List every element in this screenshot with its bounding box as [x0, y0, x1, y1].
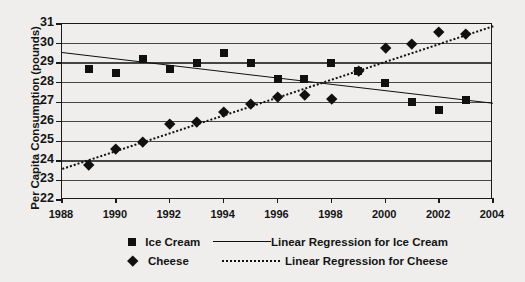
gridline	[62, 43, 491, 44]
data-point-ice-cream	[166, 65, 174, 73]
gridline	[62, 62, 491, 63]
gridline	[62, 180, 491, 181]
x-tickmark	[492, 198, 493, 203]
data-point-ice-cream	[327, 59, 335, 67]
y-tickmark	[56, 102, 61, 103]
legend-series-label: Ice Cream	[145, 236, 213, 248]
y-tick-label: 27	[24, 94, 54, 107]
x-tick-label: 1988	[38, 209, 84, 220]
gridline	[62, 141, 491, 142]
y-tickmark	[56, 160, 61, 161]
line-glyph	[213, 241, 271, 242]
legend-trendline-label: Linear Regression for Ice Cream	[271, 236, 448, 248]
y-tick-label: 23	[24, 172, 54, 185]
y-tickmark	[56, 82, 61, 83]
data-point-ice-cream	[139, 55, 147, 63]
y-tickmark	[56, 121, 61, 122]
legend-row: Ice CreamLinear Regression for Ice Cream	[118, 232, 448, 251]
chart-container: Per Capita Consumption (pounds) 22232425…	[0, 0, 525, 282]
line-glyph	[222, 260, 280, 262]
y-tickmark	[56, 23, 61, 24]
gridline	[62, 121, 491, 122]
plot-area	[61, 23, 492, 199]
y-tick-label: 24	[24, 153, 54, 166]
x-tickmark	[169, 198, 170, 203]
x-tickmark	[385, 198, 386, 203]
solid-line-icon	[213, 241, 271, 242]
chart-legend: Ice CreamLinear Regression for Ice Cream…	[118, 232, 448, 270]
y-tickmark	[56, 62, 61, 63]
x-tickmark	[61, 198, 62, 203]
data-point-ice-cream	[462, 96, 470, 104]
legend-row: CheeseLinear Regression for Cheese	[118, 251, 448, 270]
marker-glyph	[128, 238, 136, 246]
data-point-ice-cream	[435, 106, 443, 114]
y-tickmark	[56, 141, 61, 142]
data-point-ice-cream	[85, 65, 93, 73]
data-point-cheese	[164, 118, 175, 129]
y-tick-label: 28	[24, 75, 54, 88]
x-tick-label: 1994	[200, 209, 246, 220]
x-tick-label: 1996	[254, 209, 300, 220]
data-point-ice-cream	[193, 59, 201, 67]
data-point-ice-cream	[112, 69, 120, 77]
data-point-cheese	[272, 91, 283, 102]
y-tickmark	[56, 43, 61, 44]
square-marker-icon	[118, 238, 145, 246]
x-tickmark	[277, 198, 278, 203]
y-tick-label: 26	[24, 114, 54, 127]
x-tickmark	[438, 198, 439, 203]
data-point-cheese	[434, 27, 445, 38]
gridline	[62, 160, 491, 161]
y-tick-label: 30	[24, 36, 54, 49]
x-tickmark	[223, 198, 224, 203]
x-tickmark	[115, 198, 116, 203]
marker-glyph	[128, 255, 139, 266]
data-point-ice-cream	[247, 59, 255, 67]
x-tickmark	[331, 198, 332, 203]
data-point-ice-cream	[381, 79, 389, 87]
x-tick-label: 2000	[361, 209, 407, 220]
y-tick-label: 31	[24, 16, 54, 29]
x-tick-label: 1992	[146, 209, 192, 220]
y-tick-label: 22	[24, 192, 54, 205]
data-point-ice-cream	[300, 75, 308, 83]
x-tick-label: 1990	[92, 209, 138, 220]
dotted-line-icon	[222, 260, 285, 262]
x-tick-label: 2004	[469, 209, 515, 220]
x-tick-label: 2002	[415, 209, 461, 220]
data-point-cheese	[138, 136, 149, 147]
y-tick-label: 25	[24, 133, 54, 146]
diamond-marker-icon	[118, 257, 148, 265]
data-point-cheese	[407, 38, 418, 49]
y-tickmark	[56, 180, 61, 181]
data-point-ice-cream	[274, 75, 282, 83]
legend-trendline-label: Linear Regression for Cheese	[285, 255, 448, 267]
x-tick-label: 1998	[307, 209, 353, 220]
legend-series-label: Cheese	[148, 255, 222, 267]
data-point-ice-cream	[408, 98, 416, 106]
y-axis-tick-labels: 22232425262728293031	[22, 0, 54, 282]
y-tickmark	[56, 199, 61, 200]
data-point-ice-cream	[220, 49, 228, 57]
y-tick-label: 29	[24, 55, 54, 68]
